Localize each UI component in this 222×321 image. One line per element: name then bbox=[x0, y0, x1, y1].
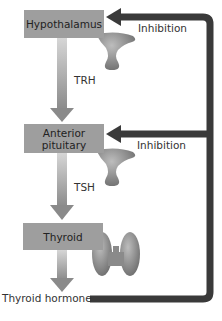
arrowhead-to-pituitary bbox=[106, 125, 121, 143]
pituitary-gland-icon bbox=[96, 148, 135, 186]
anterior-pituitary-box: Anterior pituitary bbox=[24, 124, 104, 153]
trh-label: TRH bbox=[74, 74, 96, 86]
hypothalamus-box: Hypothalamus bbox=[24, 10, 104, 38]
diagram-graphics bbox=[0, 0, 222, 321]
arrowhead-to-hypothalamus bbox=[106, 8, 121, 26]
anterior-pituitary-label-line1: Anterior bbox=[43, 127, 85, 139]
tsh-label: TSH bbox=[74, 181, 95, 193]
pituitary-gland-icon bbox=[96, 32, 135, 70]
thyroid-label: Thyroid bbox=[43, 231, 82, 243]
inhibition-label-middle: Inhibition bbox=[137, 139, 186, 151]
inhibition-label-top: Inhibition bbox=[138, 22, 187, 34]
arrow-trh bbox=[50, 38, 74, 122]
hypothalamus-label: Hypothalamus bbox=[26, 18, 102, 30]
hpt-axis-diagram: Hypothalamus Anterior pituitary Thyroid … bbox=[0, 0, 222, 321]
arrow-tsh bbox=[50, 153, 74, 220]
thyroid-hormone-label: Thyroid hormone bbox=[2, 292, 92, 304]
anterior-pituitary-label-line2: pituitary bbox=[42, 139, 86, 151]
thyroid-box: Thyroid bbox=[23, 223, 103, 250]
arrow-thyroid-hormone bbox=[50, 250, 74, 292]
